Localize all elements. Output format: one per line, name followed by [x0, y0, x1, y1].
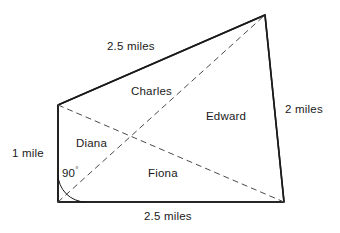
dimension-label-left-side: 1 mile: [12, 148, 44, 160]
dimension-label-right-side: 2 miles: [285, 104, 323, 116]
angle-label-90-degrees: 90°: [62, 166, 78, 179]
geometry-figure: 2.5 miles 1 mile 2 miles 2.5 miles 90° C…: [0, 0, 340, 233]
dimension-label-bottom-side: 2.5 miles: [144, 211, 192, 223]
side-right: [265, 15, 284, 202]
region-label-charles: Charles: [131, 86, 172, 98]
region-label-diana: Diana: [76, 138, 107, 150]
region-label-fiona: Fiona: [148, 168, 178, 180]
dimension-label-top-side: 2.5 miles: [107, 41, 155, 53]
degree-symbol: °: [75, 165, 78, 174]
angle-value: 90: [62, 167, 75, 179]
diagonal-topleft-to-bottomright: [58, 105, 284, 202]
diagram-canvas: [0, 0, 340, 233]
region-label-edward: Edward: [206, 111, 246, 123]
